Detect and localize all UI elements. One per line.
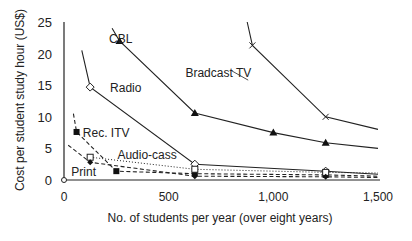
x-tick-label: 1,500 xyxy=(363,190,393,204)
x-axis-label: No. of students per year (over eight yea… xyxy=(108,211,333,225)
cost-per-student-chart: 0510152025 05001,0001,500 Cost per stude… xyxy=(0,0,412,241)
x-tick-label: 0 xyxy=(61,190,68,204)
series-label: Radio xyxy=(110,81,142,95)
series-label: Print xyxy=(71,165,96,179)
square-marker-icon xyxy=(113,168,119,174)
open-square-marker-icon xyxy=(192,166,198,172)
y-tick-label: 0 xyxy=(45,173,52,188)
y-tick-label: 20 xyxy=(38,47,52,62)
y-tick-labels: 0510152025 xyxy=(38,15,52,188)
series-labels: CBLBradcast TVRadioRec. ITVAudio-cassPri… xyxy=(71,32,251,179)
square-marker-icon xyxy=(74,129,80,135)
series-rec-itv xyxy=(73,114,378,178)
origin-marker-icon xyxy=(62,178,67,183)
y-axis-label: Cost per student study hour (US$) xyxy=(13,9,27,191)
y-tick-label: 15 xyxy=(38,78,52,93)
x-tick-labels: 05001,0001,500 xyxy=(61,190,394,204)
series-label: Audio-cass xyxy=(117,148,176,162)
y-tick-label: 25 xyxy=(38,15,52,30)
y-tick-label: 5 xyxy=(45,141,52,156)
series-bradcast-tv xyxy=(247,22,378,129)
series-label: Rec. ITV xyxy=(83,126,130,140)
series-label: CBL xyxy=(109,32,133,46)
x-tick-label: 500 xyxy=(159,190,179,204)
x-tick-label: 1,000 xyxy=(258,190,288,204)
y-tick-label: 10 xyxy=(38,110,52,125)
series-label: Bradcast TV xyxy=(185,66,251,80)
series-cbl xyxy=(112,28,378,148)
diamond-marker-icon xyxy=(86,83,94,91)
